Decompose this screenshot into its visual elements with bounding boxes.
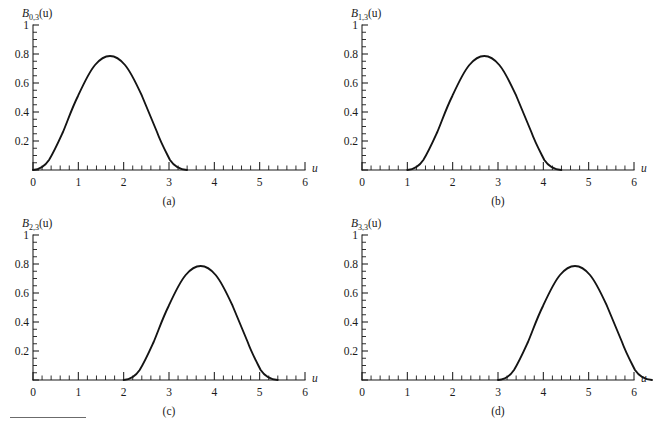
- panel-d: B3,3(u): [329, 210, 657, 423]
- panel-b-label-sub: 1,3: [358, 13, 368, 22]
- panel-c-xtick-5: 5: [257, 386, 263, 398]
- panel-c-label-arg: (u): [39, 217, 53, 230]
- panel-a-plot: B0,3(u): [0, 0, 328, 213]
- panel-b-axes: [362, 25, 634, 170]
- panel-c-ytick-0.2: 0.2: [15, 345, 30, 357]
- panel-d-plot: B3,3(u): [329, 210, 657, 423]
- panel-a-xtick-5: 5: [257, 176, 263, 188]
- panel-c-label-base: B: [22, 217, 29, 229]
- panel-a-caption: (a): [163, 195, 176, 208]
- panel-a-label-base: B: [22, 7, 29, 19]
- panel-a-x-ticklabels: 0 1 2 3 4 5 6: [30, 176, 308, 188]
- panel-a-ytick-0.6: 0.6: [15, 77, 30, 89]
- panel-d-label-sub: 3,3: [358, 223, 368, 232]
- panel-a-y-ticklabels: 1 0.8 0.6 0.4 0.2: [15, 19, 30, 147]
- panel-a: B0,3(u): [0, 0, 328, 213]
- panel-c-x-axis-label: u: [312, 372, 318, 384]
- panel-c-y-ticklabels: 1 0.8 0.6 0.4 0.2: [15, 229, 30, 357]
- panel-d-ytick-0.4: 0.4: [344, 316, 359, 328]
- panel-b-xtick-5: 5: [586, 176, 592, 188]
- panel-d-xtick-3: 3: [495, 386, 501, 398]
- panel-b-xtick-2: 2: [450, 176, 456, 188]
- panel-b-xtick-0: 0: [359, 176, 365, 188]
- panel-c-xtick-3: 3: [166, 386, 172, 398]
- panel-d-axes: [362, 235, 634, 380]
- panel-a-ytick-0.4: 0.4: [15, 106, 30, 118]
- panel-b-ytick-0.8: 0.8: [344, 48, 359, 60]
- panel-a-x-ticks: [33, 162, 305, 170]
- panel-c-x-ticklabels: 0 1 2 3 4 5 6: [30, 386, 308, 398]
- panel-b-xtick-1: 1: [404, 176, 410, 188]
- panel-d-caption: (d): [491, 405, 505, 418]
- panel-b: B1,3(u): [329, 0, 657, 213]
- panel-a-xtick-3: 3: [166, 176, 172, 188]
- panel-d-y-ticks: [362, 235, 368, 380]
- footer-rule: [10, 417, 86, 418]
- panel-b-ytick-0.6: 0.6: [344, 77, 359, 89]
- panel-b-x-axis-label: u: [641, 162, 647, 174]
- panel-a-curve: [33, 56, 187, 170]
- panel-d-xtick-6: 6: [631, 386, 637, 398]
- panel-a-ytick-1: 1: [23, 19, 29, 31]
- panel-b-label-base: B: [351, 7, 358, 19]
- panel-c-axes: [33, 235, 305, 380]
- panel-c-xtick-4: 4: [211, 386, 217, 398]
- panel-c-curve: [124, 266, 278, 380]
- panel-d-xtick-0: 0: [359, 386, 365, 398]
- panel-b-plot: B1,3(u): [329, 0, 657, 213]
- panel-d-ytick-1: 1: [352, 229, 358, 241]
- panel-c-ytick-0.4: 0.4: [15, 316, 30, 328]
- panel-a-ytick-0.2: 0.2: [15, 135, 30, 147]
- panel-a-axes: [33, 25, 305, 170]
- panel-b-x-ticks: [362, 162, 634, 170]
- panel-b-ytick-1: 1: [352, 19, 358, 31]
- panel-c-caption: (c): [163, 405, 176, 418]
- panel-d-xtick-5: 5: [586, 386, 592, 398]
- panel-a-xtick-6: 6: [302, 176, 308, 188]
- panel-b-ytick-0.2: 0.2: [344, 135, 359, 147]
- panel-d-x-ticks: [362, 372, 634, 380]
- panel-a-xtick-4: 4: [211, 176, 217, 188]
- panel-b-xtick-4: 4: [540, 176, 546, 188]
- panel-d-y-ticklabels: 1 0.8 0.6 0.4 0.2: [344, 229, 359, 357]
- panel-d-xtick-2: 2: [450, 386, 456, 398]
- panel-c-y-ticks: [33, 235, 39, 380]
- panel-a-xtick-1: 1: [75, 176, 81, 188]
- panel-b-label-arg: (u): [368, 7, 382, 20]
- panel-a-x-axis-label: u: [312, 162, 318, 174]
- panel-b-x-ticklabels: 0 1 2 3 4 5 6: [359, 176, 637, 188]
- panel-c-ytick-0.6: 0.6: [15, 287, 30, 299]
- panel-b-y-ticks: [362, 25, 368, 170]
- panel-d-label-arg: (u): [368, 217, 382, 230]
- panel-c-ytick-1: 1: [23, 229, 29, 241]
- panel-a-xtick-0: 0: [30, 176, 36, 188]
- panel-d-x-ticklabels: 0 1 2 3 4 5 6: [359, 386, 637, 398]
- panel-c-plot: B2,3(u): [0, 210, 328, 423]
- panel-b-y-ticklabels: 1 0.8 0.6 0.4 0.2: [344, 19, 359, 147]
- panel-d-xtick-1: 1: [404, 386, 410, 398]
- panel-c: B2,3(u): [0, 210, 328, 423]
- panel-c-xtick-2: 2: [121, 386, 127, 398]
- panel-c-ytick-0.8: 0.8: [15, 258, 30, 270]
- panel-b-curve: [407, 56, 561, 170]
- panel-d-xtick-4: 4: [540, 386, 546, 398]
- bspline-basis-figure: B0,3(u): [0, 0, 657, 430]
- panel-d-ytick-0.2: 0.2: [344, 345, 359, 357]
- panel-b-xtick-6: 6: [631, 176, 637, 188]
- panel-c-label-sub: 2,3: [29, 223, 39, 232]
- panel-a-y-ticks: [33, 25, 39, 170]
- panel-b-ytick-0.4: 0.4: [344, 106, 359, 118]
- panel-a-label-sub: 0,3: [29, 13, 39, 22]
- panel-a-label-arg: (u): [39, 7, 53, 20]
- panel-d-ytick-0.8: 0.8: [344, 258, 359, 270]
- panel-a-xtick-2: 2: [121, 176, 127, 188]
- panel-d-ytick-0.6: 0.6: [344, 287, 359, 299]
- panel-d-curve: [498, 266, 652, 380]
- panel-b-xtick-3: 3: [495, 176, 501, 188]
- panel-d-label-base: B: [351, 217, 358, 229]
- panel-a-ytick-0.8: 0.8: [15, 48, 30, 60]
- panel-c-xtick-0: 0: [30, 386, 36, 398]
- panel-b-caption: (b): [491, 195, 505, 208]
- panel-c-xtick-6: 6: [302, 386, 308, 398]
- panel-c-xtick-1: 1: [75, 386, 81, 398]
